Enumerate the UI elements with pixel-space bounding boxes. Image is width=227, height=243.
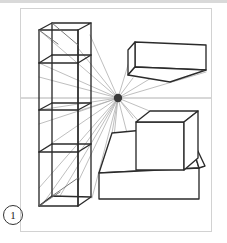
figure-frame (20, 8, 212, 232)
top-rule-divider (0, 0, 227, 3)
perspective-figure: 1 (0, 0, 227, 243)
figure-number-label: 1 (10, 210, 16, 221)
figure-number-badge: 1 (3, 205, 23, 225)
